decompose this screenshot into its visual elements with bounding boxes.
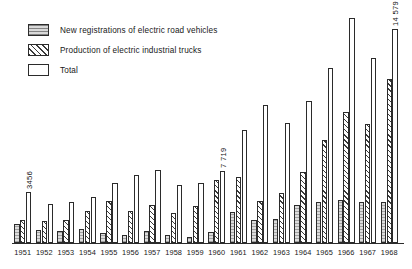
bar-production-1951 — [20, 220, 25, 243]
bar-production-1955 — [106, 201, 111, 243]
bar-total-1964 — [306, 101, 311, 243]
bar-production-1965 — [322, 140, 327, 243]
bar-new-registrations-1961 — [230, 212, 235, 243]
bar-production-1958 — [171, 213, 176, 243]
tick-label-1961: 1961 — [228, 248, 250, 257]
bar-new-registrations-1960 — [208, 232, 213, 243]
x-axis-tick-labels: 1951195219531954195519561957195819591960… — [12, 246, 400, 262]
bar-group-1961 — [228, 8, 250, 243]
bar-group-1957 — [141, 8, 163, 243]
bar-total-1952 — [48, 204, 53, 244]
bar-total-1966 — [349, 18, 354, 243]
tick-label-1963: 1963 — [271, 248, 293, 257]
bar-new-registrations-1954 — [79, 229, 84, 243]
bar-new-registrations-1964 — [294, 205, 299, 243]
tick-label-1962: 1962 — [249, 248, 271, 257]
bar-total-1959 — [198, 183, 203, 243]
bar-new-registrations-1956 — [122, 235, 127, 243]
value-annotation-1960: 7 719 — [219, 147, 228, 168]
tick-label-1951: 1951 — [12, 248, 34, 257]
bar-production-1967 — [365, 124, 370, 243]
bar-production-1959 — [193, 206, 198, 243]
bar-new-registrations-1967 — [359, 202, 364, 243]
bar-production-1968 — [387, 79, 392, 244]
bar-production-1957 — [149, 205, 154, 243]
bar-production-1952 — [42, 221, 47, 243]
tick-label-1958: 1958 — [163, 248, 185, 257]
electric-vehicle-bar-chart: New registrations of electric road vehic… — [0, 0, 412, 269]
tick-label-1965: 1965 — [314, 248, 336, 257]
bar-new-registrations-1963 — [273, 219, 278, 243]
value-annotation-1951: 3456 — [25, 171, 34, 189]
tick-label-1952: 1952 — [34, 248, 56, 257]
bar-production-1953 — [63, 220, 68, 243]
tick-label-1964: 1964 — [292, 248, 314, 257]
bar-new-registrations-1952 — [36, 230, 41, 243]
bar-total-1967 — [371, 58, 376, 243]
bar-group-1956 — [120, 8, 142, 243]
bar-production-1962 — [257, 201, 262, 243]
bar-total-1953 — [69, 202, 74, 243]
bar-production-1956 — [128, 211, 133, 243]
bar-total-1960 — [220, 171, 225, 243]
bar-new-registrations-1953 — [57, 231, 62, 243]
tick-label-1959: 1959 — [184, 248, 206, 257]
bar-total-1961 — [242, 130, 247, 243]
bar-production-1961 — [236, 177, 241, 243]
bar-group-1966 — [335, 8, 357, 243]
bar-total-1956 — [134, 175, 139, 243]
tick-label-1967: 1967 — [357, 248, 379, 257]
bar-group-1968 — [378, 8, 400, 243]
bar-total-1957 — [155, 170, 160, 243]
bar-new-registrations-1966 — [338, 200, 343, 243]
bar-production-1966 — [343, 112, 348, 243]
bar-total-1963 — [285, 123, 290, 243]
bar-group-1958 — [163, 8, 185, 243]
bar-total-1965 — [328, 68, 333, 243]
bar-new-registrations-1958 — [165, 235, 170, 243]
bar-total-1968 — [392, 29, 397, 243]
bar-new-registrations-1951 — [14, 224, 19, 243]
plot-area: 34567 71914 579 — [12, 8, 400, 243]
tick-label-1957: 1957 — [141, 248, 163, 257]
bar-total-1954 — [91, 197, 96, 243]
bar-group-1964 — [292, 8, 314, 243]
bar-group-1952 — [34, 8, 56, 243]
bar-production-1963 — [279, 193, 284, 243]
bar-production-1954 — [85, 211, 90, 243]
bar-group-1967 — [357, 8, 379, 243]
bar-total-1955 — [112, 183, 117, 243]
bar-new-registrations-1955 — [100, 233, 105, 243]
tick-label-1966: 1966 — [335, 248, 357, 257]
bar-new-registrations-1957 — [144, 231, 149, 243]
bar-new-registrations-1962 — [251, 220, 256, 243]
bar-new-registrations-1968 — [381, 202, 386, 243]
bar-group-1951 — [12, 8, 34, 243]
bar-new-registrations-1965 — [316, 202, 321, 243]
bar-group-1963 — [271, 8, 293, 243]
bar-group-1960 — [206, 8, 228, 243]
tick-label-1956: 1956 — [120, 248, 142, 257]
bar-total-1951 — [26, 192, 31, 243]
bar-group-1955 — [98, 8, 120, 243]
bar-group-1962 — [249, 8, 271, 243]
tick-label-1968: 1968 — [378, 248, 400, 257]
bar-group-1953 — [55, 8, 77, 243]
tick-label-1960: 1960 — [206, 248, 228, 257]
bar-production-1960 — [214, 180, 219, 243]
bar-total-1958 — [177, 185, 182, 243]
x-axis-baseline — [12, 243, 404, 244]
bar-total-1962 — [263, 105, 268, 243]
bar-group-1959 — [184, 8, 206, 243]
tick-label-1953: 1953 — [55, 248, 77, 257]
value-annotation-1968: 14 579 — [391, 1, 400, 26]
bar-group-1954 — [77, 8, 99, 243]
tick-label-1954: 1954 — [77, 248, 99, 257]
bar-production-1964 — [300, 172, 305, 243]
tick-label-1955: 1955 — [98, 248, 120, 257]
bar-group-1965 — [314, 8, 336, 243]
